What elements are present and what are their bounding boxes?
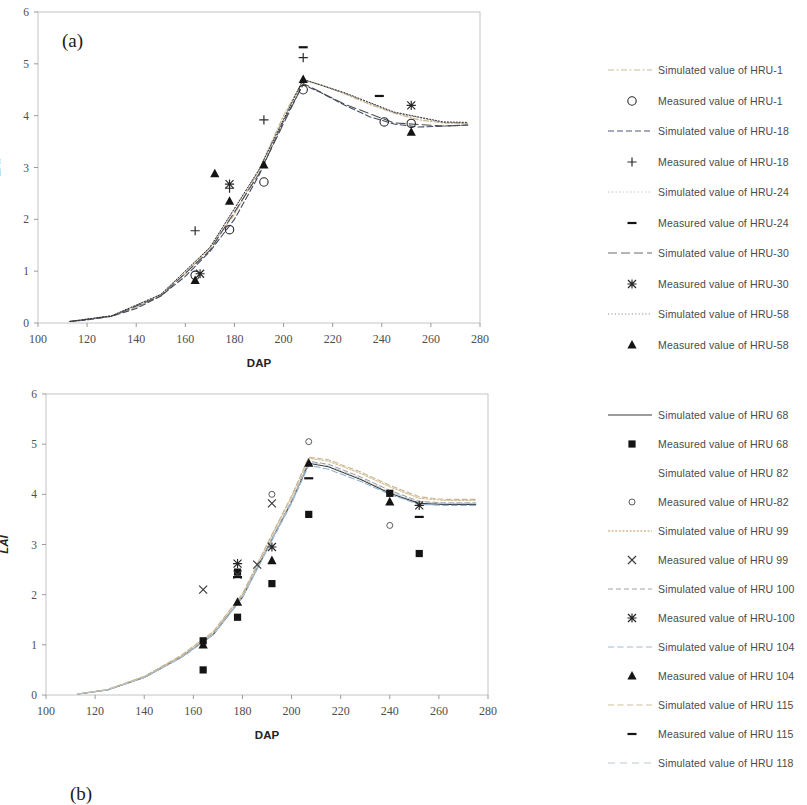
- legend-a-entry-label: Measured value of HRU-24: [658, 217, 789, 229]
- x-tick-label: 260: [430, 704, 448, 718]
- marker-open-circle-small-icon: [606, 493, 658, 511]
- y-tick-label: 1: [31, 639, 37, 651]
- line-dotted-icon: [606, 305, 658, 323]
- marker-asterisk-icon: [606, 275, 658, 293]
- legend-b-entry-item[interactable]: Measured value of HRU 104: [606, 661, 807, 690]
- legend-b-entry-item[interactable]: Measured value of HRU-100: [606, 603, 807, 632]
- x-tick-label: 240: [381, 704, 399, 718]
- line-long-dash-icon: [606, 244, 658, 262]
- series-markers: [191, 53, 308, 235]
- series-line: [78, 463, 476, 694]
- marker-asterisk-icon: [606, 609, 658, 627]
- chart-panel-a: 0123456100120140160180200220240260280DAP…: [0, 0, 600, 372]
- y-tick-label: 0: [31, 689, 37, 701]
- series-line: [78, 458, 476, 694]
- legend-b-entry-item[interactable]: Simulated value of HRU 82: [606, 458, 807, 487]
- line-dashed-grey-icon: [606, 580, 658, 598]
- series-markers: [199, 458, 395, 648]
- legend-b-entry-label: Simulated value of HRU 82: [658, 467, 788, 479]
- line-dashed-light-icon: [606, 754, 658, 772]
- legend-b-entry-item[interactable]: Simulated value of HRU 115: [606, 690, 807, 719]
- x-tick-label: 160: [176, 332, 194, 346]
- marker-filled-triangle-icon: [606, 336, 658, 354]
- marker-dash-icon: [606, 725, 658, 743]
- legend-a-entry-item[interactable]: Measured value of HRU-24: [606, 208, 807, 239]
- line-dotted-tan-icon: [606, 522, 658, 540]
- marker-dash-icon: [606, 214, 658, 232]
- marker-filled-triangle-icon: [606, 667, 658, 685]
- line-dashed-tan-icon: [606, 696, 658, 714]
- series-markers: [200, 490, 423, 674]
- x-tick-label: 100: [29, 332, 47, 346]
- legend-a-entry-label: Simulated value of HRU-24: [658, 186, 789, 198]
- legend-b-entry-label: Measured value of HRU 104: [658, 670, 794, 682]
- plot-area-b: 0123456100120140160180200220240260280DAP…: [0, 375, 600, 747]
- legend-a-entry-item[interactable]: Simulated value of HRU-58: [606, 299, 807, 330]
- panel-tag-b: (b): [70, 783, 92, 805]
- legend-a-entry-item[interactable]: Measured value of HRU-58: [606, 330, 807, 361]
- line-blank-icon: [606, 464, 658, 482]
- y-tick-label: 3: [23, 162, 29, 174]
- legend-b-entry-item[interactable]: Simulated value of HRU 100: [606, 574, 807, 603]
- series-line: [78, 465, 476, 694]
- legend-a-entry-label: Measured value of HRU-18: [658, 156, 789, 168]
- series-markers: [299, 46, 384, 97]
- x-tick-label: 220: [324, 332, 342, 346]
- x-tick-label: 120: [86, 704, 104, 718]
- line-dash-dot-light-icon: [606, 61, 658, 79]
- y-tick-label: 5: [31, 438, 37, 450]
- legend-a-entry-item[interactable]: Simulated value of HRU-18: [606, 116, 807, 147]
- legend-b-entry-item[interactable]: Measured value of HRU 99: [606, 545, 807, 574]
- legend-b-entry-item[interactable]: Simulated value of HRU 104: [606, 632, 807, 661]
- y-tick-label: 2: [31, 589, 37, 601]
- legend-b-entry-item[interactable]: Simulated value of HRU 68: [606, 400, 807, 429]
- legend-b-entry-label: Simulated value of HRU 100: [658, 583, 794, 595]
- legend-b-entry-item[interactable]: Measured value of HRU 68: [606, 429, 807, 458]
- line-dashed-blue-icon: [606, 638, 658, 656]
- legend-a-entry-item[interactable]: Simulated value of HRU-1: [606, 55, 807, 86]
- series-markers: [191, 74, 416, 284]
- legend-b-entry-item[interactable]: Simulated value of HRU 118: [606, 748, 807, 777]
- x-tick-label: 280: [479, 704, 497, 718]
- legend-a-entry-item[interactable]: Measured value of HRU-18: [606, 147, 807, 178]
- legend-b-entry-item[interactable]: Simulated value of HRU 99: [606, 516, 807, 545]
- marker-x-icon: [606, 551, 658, 569]
- y-tick-label: 6: [23, 6, 29, 18]
- series-markers: [199, 499, 276, 593]
- legend-b-entry-item[interactable]: Measured value of HRU-82: [606, 487, 807, 516]
- legend-b-entry-label: Measured value of HRU-82: [658, 496, 789, 508]
- legend-a-entry-label: Simulated value of HRU-1: [658, 64, 783, 76]
- legend-b-entry-label: Simulated value of HRU 104: [658, 641, 794, 653]
- legend-b-entry-label: Measured value of HRU 99: [658, 554, 788, 566]
- y-tick-label: 1: [23, 265, 29, 277]
- legend-a-entry-item[interactable]: Simulated value of HRU-24: [606, 177, 807, 208]
- y-axis-title: LAI: [0, 534, 10, 553]
- series-line: [78, 457, 476, 694]
- x-axis-title: DAP: [247, 357, 272, 369]
- x-tick-label: 140: [127, 332, 145, 346]
- legend-b-entry-label: Simulated value of HRU 68: [658, 409, 788, 421]
- plot-area-a: 0123456100120140160180200220240260280DAP…: [0, 0, 600, 372]
- y-tick-label: 4: [23, 110, 29, 122]
- legend-a-entry-label: Measured value of HRU-1: [658, 95, 783, 107]
- line-dotted-faint-icon: [606, 183, 658, 201]
- marker-filled-square-icon: [606, 435, 658, 453]
- x-tick-label: 200: [283, 704, 301, 718]
- y-tick-label: 4: [31, 488, 37, 500]
- y-axis-title: LAI: [0, 158, 2, 177]
- x-tick-label: 240: [373, 332, 391, 346]
- legend-a-entry-item[interactable]: Measured value of HRU-30: [606, 269, 807, 300]
- legend-a-entry-item[interactable]: Measured value of HRU-1: [606, 86, 807, 117]
- x-tick-label: 200: [275, 332, 293, 346]
- legend-panel-a: Simulated value of HRU-1Measured value o…: [606, 55, 807, 360]
- y-tick-label: 2: [23, 213, 29, 225]
- legend-b-entry-item[interactable]: Measured value of HRU 115: [606, 719, 807, 748]
- legend-b-entry-label: Measured value of HRU 115: [658, 728, 793, 740]
- legend-a-entry-item[interactable]: Simulated value of HRU-30: [606, 238, 807, 269]
- legend-a-entry-label: Simulated value of HRU-30: [658, 247, 789, 259]
- marker-open-circle-icon: [606, 92, 658, 110]
- series-line: [70, 80, 468, 321]
- series-markers: [195, 101, 415, 279]
- panel-tag-a: (a): [62, 30, 83, 52]
- y-tick-label: 3: [31, 539, 37, 551]
